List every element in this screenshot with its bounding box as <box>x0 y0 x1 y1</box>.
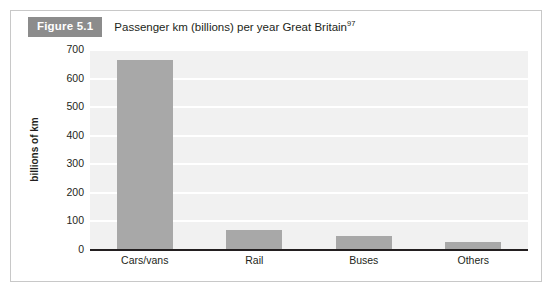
bar-slot <box>90 49 200 249</box>
x-axis-tick-label: Rail <box>245 254 263 266</box>
y-axis-tick-labels: 0100200300400500600700 <box>44 49 88 249</box>
x-axis-tick-label: Cars/vans <box>121 254 168 266</box>
bar-slot <box>200 49 310 249</box>
x-axis-tick-label: Buses <box>349 254 378 266</box>
bar <box>336 236 392 249</box>
figure-card: Figure 5.1 Passenger km (billions) per y… <box>10 10 542 282</box>
y-axis-tick-label: 500 <box>66 100 84 112</box>
bar <box>226 230 282 249</box>
bar-slot <box>419 49 529 249</box>
plot-area <box>90 49 528 249</box>
bar-chart: billions of km 0100200300400500600700 Ca… <box>28 49 528 271</box>
figure-caption-text: Passenger km (billions) per year Great B… <box>114 21 347 33</box>
y-axis-tick-label: 700 <box>66 43 84 55</box>
y-axis-tick-label: 400 <box>66 129 84 141</box>
y-axis-title: billions of km <box>25 49 43 249</box>
x-axis-tick-label: Others <box>457 254 489 266</box>
y-axis-title-text: billions of km <box>29 117 40 181</box>
figure-header: Figure 5.1 Passenger km (billions) per y… <box>11 11 541 43</box>
bar <box>117 60 173 249</box>
y-axis-tick-label: 100 <box>66 214 84 226</box>
figure-number-badge: Figure 5.1 <box>28 17 102 37</box>
y-axis-tick-label: 0 <box>78 243 84 255</box>
y-axis-tick-label: 300 <box>66 157 84 169</box>
y-axis-tick-label: 600 <box>66 72 84 84</box>
bar-slot <box>309 49 419 249</box>
x-axis-tick-labels: Cars/vansRailBusesOthers <box>90 254 528 270</box>
figure-caption: Passenger km (billions) per year Great B… <box>114 21 355 33</box>
x-axis-line <box>90 249 528 251</box>
y-axis-tick-label: 200 <box>66 186 84 198</box>
bar-series <box>90 49 528 249</box>
figure-footnote-marker: 97 <box>347 19 355 28</box>
